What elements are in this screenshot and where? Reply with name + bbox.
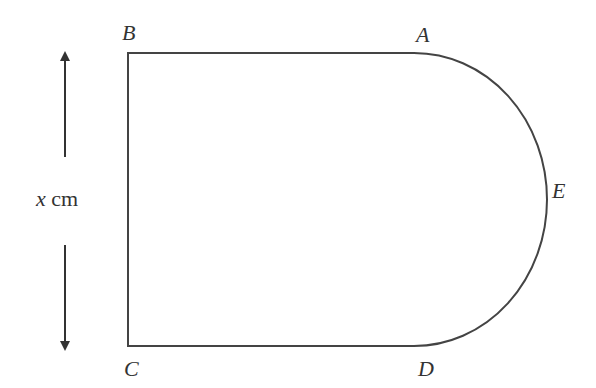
shape-outline (128, 53, 547, 346)
label-a: A (416, 24, 429, 46)
dimension-variable: x (36, 186, 46, 211)
shape-diagram (0, 0, 596, 388)
label-b: B (122, 22, 135, 44)
dimension-label: x cm (36, 188, 78, 210)
label-c: C (124, 358, 139, 380)
label-d: D (418, 358, 434, 380)
label-e: E (552, 180, 565, 202)
dimension-unit: cm (46, 186, 78, 211)
